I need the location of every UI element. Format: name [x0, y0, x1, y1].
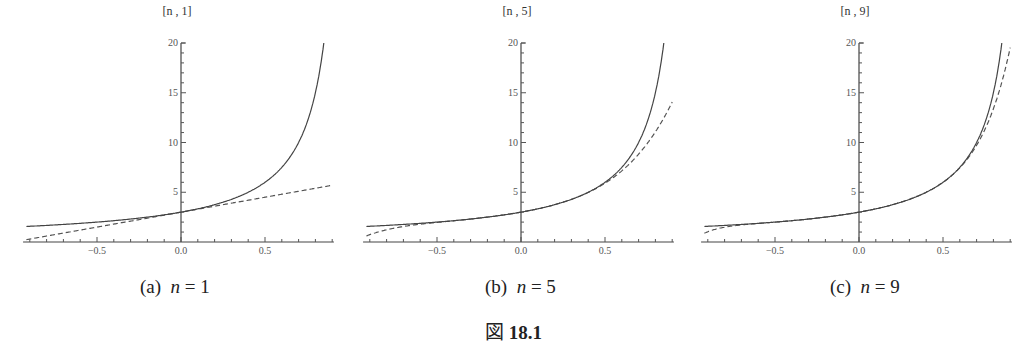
x-tick-label: −0.5 — [88, 245, 106, 256]
panel-a: −0.50.00.55101520[n , 1] — [0, 0, 345, 260]
chart-a: −0.50.00.55101520[n , 1] — [0, 0, 345, 260]
y-tick-label: 20 — [846, 37, 856, 48]
x-tick-label: 0.0 — [515, 245, 528, 256]
figure-caption: 図 18.1 — [0, 317, 1027, 344]
dashed-series — [704, 48, 1010, 234]
subcaption-var: n — [861, 276, 871, 297]
y-tick-label: 15 — [168, 87, 178, 98]
x-tick-label: 0.0 — [175, 245, 188, 256]
figure-caption-prefix: 図 — [485, 322, 504, 343]
y-tick-label: 10 — [168, 137, 178, 148]
x-tick-label: 0.0 — [853, 245, 866, 256]
y-tick-label: 5 — [173, 186, 178, 197]
y-tick-label: 15 — [508, 87, 518, 98]
subcaption-var: n — [171, 276, 181, 297]
panel-c: −0.50.00.55101520[n , 9] — [678, 0, 1023, 260]
y-axis-label: [n , 9] — [841, 4, 870, 18]
y-tick-label: 10 — [846, 137, 856, 148]
subcaption-eq: = 5 — [526, 276, 556, 297]
figure-caption-number: 18.1 — [509, 322, 542, 343]
y-tick-label: 5 — [851, 186, 856, 197]
subcaption-a: (a) n = 1 — [140, 276, 210, 298]
subcaption-b: (b) n = 5 — [485, 276, 556, 298]
x-tick-label: 0.5 — [937, 245, 950, 256]
solid-series — [366, 43, 663, 227]
subcaption-eq: = 9 — [870, 276, 900, 297]
subcaption-label: (b) — [485, 276, 507, 297]
x-tick-label: −0.5 — [766, 245, 784, 256]
y-axis-label: [n , 1] — [163, 4, 192, 18]
y-tick-label: 5 — [513, 186, 518, 197]
y-tick-label: 15 — [846, 87, 856, 98]
y-tick-label: 20 — [508, 37, 518, 48]
chart-b: −0.50.00.55101520[n , 5] — [340, 0, 685, 260]
y-tick-label: 10 — [508, 137, 518, 148]
y-axis-label: [n , 5] — [503, 4, 532, 18]
subcaption-var: n — [517, 276, 527, 297]
solid-series — [26, 43, 323, 227]
subcaption-c: (c) n = 9 — [830, 276, 900, 298]
y-tick-label: 20 — [168, 37, 178, 48]
chart-c: −0.50.00.55101520[n , 9] — [678, 0, 1023, 260]
x-tick-label: 0.5 — [599, 245, 612, 256]
x-tick-label: −0.5 — [428, 245, 446, 256]
subcaption-label: (a) — [140, 276, 161, 297]
subcaption-label: (c) — [830, 276, 851, 297]
x-tick-label: 0.5 — [259, 245, 272, 256]
solid-series — [704, 43, 1001, 227]
subcaption-eq: = 1 — [180, 276, 210, 297]
panel-b: −0.50.00.55101520[n , 5] — [340, 0, 685, 260]
dashed-series — [366, 102, 672, 236]
